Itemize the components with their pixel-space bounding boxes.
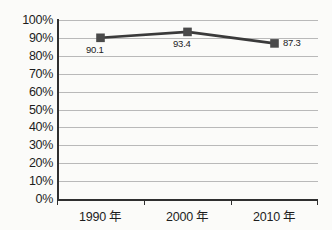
data-label-2010: 87.3 (283, 37, 301, 48)
data-point-marker-1990 (96, 34, 105, 43)
data-label-2000: 93.4 (173, 38, 191, 49)
data-label-1990: 90.1 (86, 44, 104, 55)
data-point-marker-2010 (270, 39, 279, 48)
line-chart: 100% 90% 80% 70% 60% 50% 40% 30% 20% 10%… (0, 0, 332, 230)
series-line-group (0, 0, 332, 230)
data-point-marker-2000 (183, 28, 192, 37)
